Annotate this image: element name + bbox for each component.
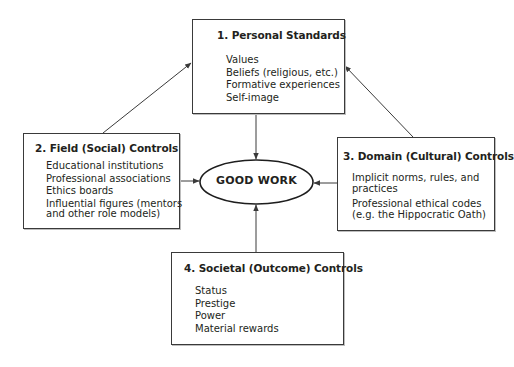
societal-controls-title: 4. Societal (Outcome) Controls xyxy=(184,262,363,275)
personal-standards-title: 1. Personal Standards xyxy=(217,29,346,42)
list-item: Values xyxy=(226,54,340,67)
list-item: Beliefs (religious, etc.) xyxy=(226,67,340,80)
arrow-field-to-personal xyxy=(103,63,191,133)
field-controls-box: 2. Field (Social) Controls Educational i… xyxy=(23,133,180,229)
domain-controls-box: 3. Domain (Cultural) Controls Implicit n… xyxy=(337,137,495,231)
list-item: Power xyxy=(195,310,279,323)
list-item: (e.g. the Hippocratic Oath) xyxy=(352,209,486,222)
list-item: Prestige xyxy=(195,298,279,311)
societal-controls-box: 4. Societal (Outcome) Controls Status Pr… xyxy=(171,252,344,345)
personal-standards-list: Values Beliefs (religious, etc.) Formati… xyxy=(226,54,340,104)
list-item: Ethics boards xyxy=(46,185,182,198)
list-item: Formative experiences xyxy=(226,79,340,92)
list-item: Educational institutions xyxy=(46,160,182,173)
field-controls-title: 2. Field (Social) Controls xyxy=(35,142,178,155)
list-item: Self-image xyxy=(226,92,340,105)
list-item: Professional associations xyxy=(46,173,182,186)
field-controls-list: Educational institutions Professional as… xyxy=(46,160,182,221)
personal-standards-box: 1. Personal Standards Values Beliefs (re… xyxy=(192,19,345,114)
list-item: Material rewards xyxy=(195,323,279,336)
good-work-label: GOOD WORK xyxy=(200,174,313,187)
arrow-domain-to-personal xyxy=(345,66,413,137)
list-item: Status xyxy=(195,285,279,298)
societal-controls-list: Status Prestige Power Material rewards xyxy=(195,285,279,335)
domain-controls-list: Implicit norms, rules, and practices Pro… xyxy=(352,172,486,221)
domain-controls-title: 3. Domain (Cultural) Controls xyxy=(343,150,514,163)
